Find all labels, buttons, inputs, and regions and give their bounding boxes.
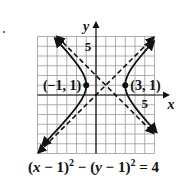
y-tick-label: 5 xyxy=(85,39,92,54)
vertex-point xyxy=(122,82,128,88)
eq-y-var: y xyxy=(95,159,102,175)
eq-part2: − 1) xyxy=(102,159,131,175)
eq-equals: = 4 xyxy=(135,159,159,175)
eq-minus: − ( xyxy=(74,159,95,175)
vertex-label: (−1, 1) xyxy=(43,78,82,94)
vertex-point xyxy=(83,82,89,88)
y-axis-label: y xyxy=(81,19,90,34)
vertex-label: (3, 1) xyxy=(130,78,161,94)
hyperbola-graph: (−1, 1)(3, 1)55xy xyxy=(0,0,187,158)
x-tick-label: 5 xyxy=(142,96,149,111)
eq-part1: − 1) xyxy=(41,159,70,175)
equation-label: (x − 1)2 − (y − 1)2 = 4 xyxy=(0,157,187,176)
eq-x-var: x xyxy=(33,159,41,175)
x-axis-label: x xyxy=(167,97,175,112)
